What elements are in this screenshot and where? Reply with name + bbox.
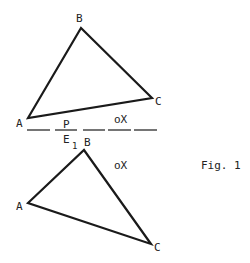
upper-point-x-label: oX: [114, 114, 127, 125]
figure-canvas: [0, 0, 250, 263]
line-e-subscript: 1: [72, 142, 77, 151]
lower-vertex-b-label: B: [84, 137, 91, 148]
lower-vertex-c-label: C: [154, 242, 161, 253]
lower-point-x-label: oX: [114, 160, 127, 171]
upper-triangle: [28, 28, 152, 118]
lower-vertex-a-label: A: [16, 201, 23, 212]
figure-caption: Fig. 1: [201, 160, 241, 171]
upper-vertex-c-label: C: [155, 96, 162, 107]
upper-vertex-a-label: A: [16, 118, 23, 129]
lower-triangle: [28, 150, 151, 244]
upper-vertex-b-label: B: [76, 13, 83, 24]
plane-p-label: P: [63, 119, 70, 130]
line-e-label: E: [63, 134, 70, 145]
